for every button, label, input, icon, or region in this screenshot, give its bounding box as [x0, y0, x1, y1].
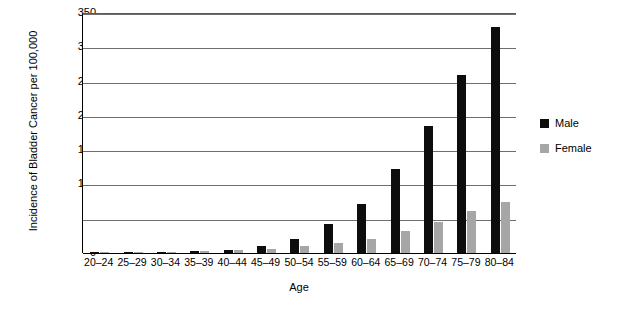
bar-male [491, 27, 500, 253]
bars-layer [83, 14, 516, 253]
bar-group [383, 14, 416, 253]
bar-group [116, 14, 149, 253]
chart-legend: MaleFemale [540, 118, 635, 168]
x-axis-line [83, 253, 516, 255]
bar-female [467, 211, 476, 253]
bar-group [217, 14, 250, 253]
bar-female [401, 231, 410, 253]
legend-item-male: Male [540, 118, 635, 129]
legend-label: Female [555, 143, 592, 154]
bar-female [501, 202, 510, 253]
legend-item-female: Female [540, 143, 635, 154]
bar-male [457, 75, 466, 253]
legend-label: Male [555, 118, 579, 129]
bar-group [150, 14, 183, 253]
legend-swatch-male-icon [540, 119, 549, 128]
bar-male [391, 169, 400, 253]
bar-female [367, 239, 376, 253]
bar-group [317, 14, 350, 253]
bar-group [484, 14, 517, 253]
bar-group [283, 14, 316, 253]
x-axis-title: Age [82, 281, 516, 293]
bar-group [450, 14, 483, 253]
x-axis-tick-labels: 20–2425–2930–3435–3940–4445–4950–5455–59… [82, 256, 516, 272]
bar-male [424, 126, 433, 253]
bladder-cancer-incidence-chart: Incidence of Bladder Cancer per 100,000 … [0, 0, 637, 315]
bar-group [250, 14, 283, 253]
x-tick-label: 80–84 [479, 256, 519, 268]
bar-group [417, 14, 450, 253]
bar-group [350, 14, 383, 253]
bar-group [83, 14, 116, 253]
bar-female [434, 222, 443, 253]
plot-area [82, 13, 516, 253]
bar-group [183, 14, 216, 253]
bar-male [357, 204, 366, 253]
bar-male [290, 239, 299, 253]
y-axis-title: Incidence of Bladder Cancer per 100,000 [27, 6, 39, 256]
legend-swatch-female-icon [540, 144, 549, 153]
bar-male [324, 224, 333, 253]
